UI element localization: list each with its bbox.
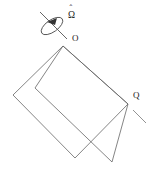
body-quadrilateral-b (35, 46, 128, 162)
label-origin-o: O (72, 33, 79, 43)
label-point-q: Q (133, 90, 140, 100)
diagram-canvas: O Q Ω ˆ (0, 0, 152, 180)
velocity-direction-dash (133, 110, 146, 123)
rigid-body-rotation-figure: O Q Ω ˆ (0, 0, 152, 180)
label-angular-velocity-hat-icon: ˆ (70, 4, 73, 13)
body-quadrilateral-a (13, 46, 128, 158)
rotation-arrow-ellipse (38, 14, 65, 38)
